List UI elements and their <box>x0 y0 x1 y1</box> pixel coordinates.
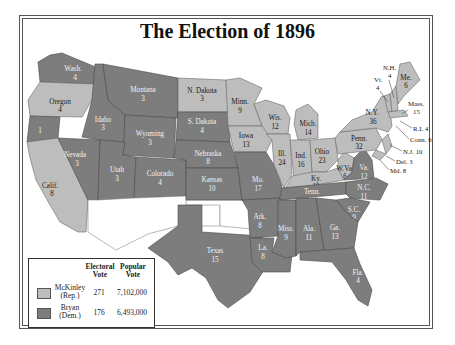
state-colorado[interactable]: Colorado 4 <box>134 157 186 198</box>
svg-text:Me.: Me. <box>400 74 412 82</box>
svg-text:Fla.: Fla. <box>353 269 364 277</box>
svg-text:Md. 8: Md. 8 <box>390 167 407 174</box>
state-maryland-shape[interactable] <box>372 150 386 160</box>
legend-header-popular: PopularVote <box>115 263 151 279</box>
state-washington[interactable]: Wash. 4 <box>38 53 98 84</box>
svg-text:10: 10 <box>208 185 216 193</box>
svg-text:Calif.: Calif. <box>42 182 58 190</box>
state-south-dakota[interactable]: S. Dakota 4 <box>176 112 230 142</box>
svg-text:R.I. 4: R.I. 4 <box>413 125 429 132</box>
legend-electoral-vote: 176 <box>87 308 111 317</box>
svg-text:32: 32 <box>355 143 363 151</box>
svg-text:3: 3 <box>141 95 145 103</box>
state-florida[interactable]: Fla. 4 <box>300 248 372 306</box>
svg-text:8: 8 <box>258 222 262 230</box>
state-north-dakota[interactable]: N. Dakota 3 <box>178 78 228 112</box>
svg-text:Nevada: Nevada <box>64 151 87 159</box>
svg-text:Ark.: Ark. <box>254 213 267 221</box>
legend-header-electoral: ElectoralVote <box>85 263 115 279</box>
legend-electoral-vote: 271 <box>87 288 111 297</box>
svg-text:Mass.: Mass. <box>408 100 424 107</box>
svg-text:13: 13 <box>331 233 339 241</box>
svg-text:4: 4 <box>376 84 380 91</box>
svg-text:Va.: Va. <box>359 164 369 172</box>
svg-text:Ill.: Ill. <box>278 150 286 158</box>
state-maine[interactable]: Me. 6 <box>396 62 420 104</box>
svg-text:16: 16 <box>297 161 305 169</box>
svg-text:Minn.: Minn. <box>231 98 249 106</box>
svg-text:Utah: Utah <box>110 166 124 174</box>
svg-text:Idaho: Idaho <box>95 116 112 124</box>
svg-text:Nebraska: Nebraska <box>194 150 222 158</box>
svg-text:8: 8 <box>206 158 210 166</box>
svg-text:9: 9 <box>238 107 242 115</box>
svg-text:24: 24 <box>278 159 286 167</box>
svg-text:9: 9 <box>284 234 288 242</box>
svg-text:4: 4 <box>356 277 360 285</box>
svg-text:8: 8 <box>261 253 265 261</box>
svg-text:14: 14 <box>304 129 312 137</box>
svg-text:12: 12 <box>271 123 279 131</box>
legend-popular-vote: 6,493,000 <box>113 308 151 317</box>
svg-text:3: 3 <box>148 139 152 147</box>
svg-text:N.H.: N.H. <box>383 64 397 71</box>
svg-text:11: 11 <box>361 193 368 201</box>
svg-text:Del. 3: Del. 3 <box>396 158 413 165</box>
legend-name: Bryan(Dem.) <box>51 304 89 320</box>
svg-text:Mich.: Mich. <box>300 120 317 128</box>
svg-text:Montana: Montana <box>130 86 156 94</box>
svg-text:N.J. 10: N.J. 10 <box>403 148 423 155</box>
legend-row-bryan: Bryan(Dem.) 176 6,493,000 <box>29 303 154 323</box>
svg-text:6: 6 <box>404 82 408 90</box>
state-oregon[interactable]: Oregon 4 <box>28 82 95 117</box>
svg-text:Wash.: Wash. <box>64 65 82 73</box>
svg-text:Miss.: Miss. <box>278 225 294 233</box>
svg-text:N. Dakota: N. Dakota <box>187 87 217 95</box>
svg-text:3: 3 <box>101 124 105 132</box>
svg-text:4: 4 <box>73 74 77 82</box>
svg-text:Oregon: Oregon <box>49 98 71 106</box>
svg-text:Ky.: Ky. <box>311 175 321 183</box>
legend-row-mckinley: McKinley(Rep.) 271 7,102,000 <box>29 283 154 303</box>
state-north-carolina[interactable]: N.C. 11 <box>346 178 388 201</box>
svg-text:13: 13 <box>242 141 250 149</box>
svg-text:15: 15 <box>211 256 219 264</box>
legend-name: McKinley(Rep.) <box>51 284 89 300</box>
svg-text:3: 3 <box>75 160 79 168</box>
svg-text:17: 17 <box>254 185 262 193</box>
svg-text:36: 36 <box>369 118 377 126</box>
state-new-york[interactable]: N.Y. 36 <box>340 96 392 132</box>
svg-text:Conn. 6: Conn. 6 <box>410 136 432 143</box>
svg-text:Ga.: Ga. <box>330 224 340 232</box>
bryan-swatch <box>37 308 51 319</box>
legend-popular-vote: 7,102,000 <box>113 288 151 297</box>
svg-text:Wis.: Wis. <box>268 114 281 122</box>
state-wyoming[interactable]: Wyoming 3 <box>123 115 176 158</box>
state-new-jersey-shape[interactable] <box>382 134 392 154</box>
svg-text:N.C.: N.C. <box>357 184 371 192</box>
svg-text:Penn.: Penn. <box>351 135 367 143</box>
state-kansas[interactable]: Kansas 10 <box>186 168 242 200</box>
svg-text:23: 23 <box>318 157 326 165</box>
state-michigan[interactable]: Mich. 14 <box>294 104 318 140</box>
svg-text:Wyoming: Wyoming <box>136 130 165 138</box>
svg-text:4: 4 <box>200 127 204 135</box>
state-indiana[interactable]: Ind. 16 <box>290 140 312 178</box>
svg-text:La.: La. <box>258 244 268 252</box>
svg-text:4: 4 <box>58 106 62 114</box>
svg-text:3: 3 <box>115 175 119 183</box>
state-minnesota[interactable]: Minn. 9 <box>226 78 262 126</box>
svg-text:Mo.: Mo. <box>252 176 264 184</box>
state-ohio[interactable]: Ohio 23 <box>310 138 338 172</box>
svg-text:Ohio: Ohio <box>315 148 330 156</box>
svg-text:Texas: Texas <box>207 247 224 255</box>
svg-text:N.Y.: N.Y. <box>365 109 378 117</box>
svg-text:15: 15 <box>413 108 420 115</box>
svg-text:1: 1 <box>38 127 42 135</box>
svg-text:S. Dakota: S. Dakota <box>188 118 217 126</box>
svg-text:Kansas: Kansas <box>202 176 223 184</box>
legend: ElectoralVote PopularVote McKinley(Rep.)… <box>28 258 155 328</box>
svg-text:11: 11 <box>306 234 313 242</box>
svg-text:4: 4 <box>158 179 162 187</box>
svg-text:8: 8 <box>50 190 54 198</box>
